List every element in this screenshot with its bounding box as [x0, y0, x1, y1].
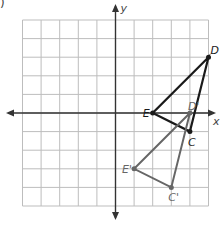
vertex-E: [150, 111, 155, 116]
x-axis-left-arrow-icon: [6, 110, 14, 117]
coordinate-plane: xy DECD'E'C': [0, 0, 224, 227]
y-axis-down-arrow-icon: [112, 212, 119, 220]
vertex-label-D-prime: D': [188, 100, 200, 113]
x-axis-label: x: [212, 115, 220, 128]
vertex-label-E: E: [143, 107, 150, 120]
vertex-label-D: D: [211, 44, 219, 57]
y-axis-up-arrow-icon: [112, 4, 119, 12]
triangles: DECD'E'C': [122, 44, 219, 204]
vertex-C-prime: [169, 185, 174, 190]
vertex-label-E-prime: E': [122, 163, 132, 176]
y-axis-label: y: [120, 2, 128, 15]
vertex-label-C: C: [188, 136, 196, 149]
vertex-label-C-prime: C': [168, 191, 179, 204]
vertex-C: [187, 129, 192, 134]
vertex-E-prime: [132, 166, 137, 171]
